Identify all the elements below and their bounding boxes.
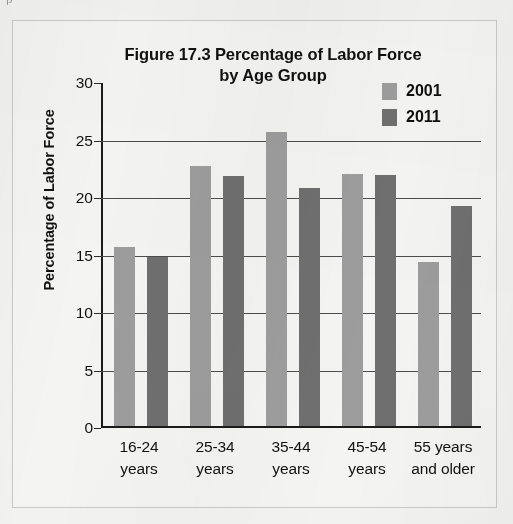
x-category-label-35-44-years: 35-44years: [247, 436, 335, 481]
x-category-line-2: years: [120, 460, 157, 477]
y-tick-label-30: 30: [59, 74, 93, 92]
y-tick-mark-5: [94, 371, 101, 372]
x-category-label-55-years-and-older: 55 yearsand older: [399, 436, 487, 481]
bar-2001-16-24-years: [114, 247, 135, 426]
x-category-line-2: and older: [411, 460, 475, 477]
y-tick-label-15: 15: [59, 247, 93, 265]
scanned-figure-page: p · · · Figure 17.3 Percentage of Labor …: [0, 0, 513, 524]
x-category-line-2: years: [348, 460, 385, 477]
bar-2001-55-years-and-older: [418, 262, 439, 426]
bar-2011-25-34-years: [223, 176, 244, 426]
y-tick-mark-0: [94, 428, 101, 429]
y-tick-mark-25: [94, 141, 101, 142]
x-category-line-2: years: [196, 460, 233, 477]
x-category-label-25-34-years: 25-34years: [171, 436, 259, 481]
y-tick-label-25: 25: [59, 132, 93, 150]
bar-2001-45-54-years: [342, 174, 363, 426]
y-tick-label-0: 0: [59, 419, 93, 437]
bar-2011-16-24-years: [147, 257, 168, 426]
x-category-line-2: years: [272, 460, 309, 477]
bar-2001-25-34-years: [190, 166, 211, 426]
gridline-25: [101, 141, 481, 142]
y-tick-mark-30: [94, 83, 101, 84]
x-axis-line: [101, 426, 481, 428]
bar-2001-35-44-years: [266, 132, 287, 426]
chart-title-line-2: by Age Group: [219, 66, 326, 84]
bar-2011-45-54-years: [375, 175, 396, 426]
x-category-label-45-54-years: 45-54years: [323, 436, 411, 481]
bar-2011-55-years-and-older: [451, 206, 472, 426]
y-tick-label-10: 10: [59, 304, 93, 322]
x-category-line-1: 35-44: [271, 438, 310, 455]
x-category-line-1: 45-54: [347, 438, 386, 455]
x-category-line-1: 25-34: [195, 438, 234, 455]
x-category-line-1: 55 years: [414, 438, 473, 455]
plot-area: [101, 83, 481, 428]
y-tick-mark-15: [94, 256, 101, 257]
x-category-label-16-24-years: 16-24years: [95, 436, 183, 481]
y-tick-mark-20: [94, 198, 101, 199]
y-tick-mark-10: [94, 313, 101, 314]
y-axis-tick-labels: 302520151050: [55, 83, 93, 428]
gridline-20: [101, 198, 481, 199]
y-tick-label-5: 5: [59, 362, 93, 380]
bar-2011-35-44-years: [299, 188, 320, 426]
chart-title-line-1: Figure 17.3 Percentage of Labor Force: [124, 45, 421, 63]
x-category-line-1: 16-24: [119, 438, 158, 455]
y-tick-label-20: 20: [59, 189, 93, 207]
bar-chart: Figure 17.3 Percentage of Labor Force by…: [0, 0, 513, 524]
x-axis-category-labels: 16-24years25-34years35-44years45-54years…: [101, 436, 491, 498]
